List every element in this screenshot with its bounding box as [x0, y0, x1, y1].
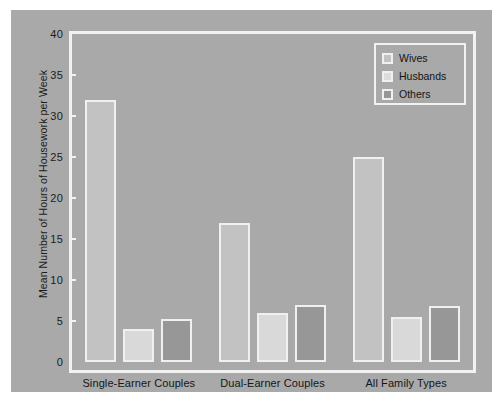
- chart-legend: WivesHusbandsOthers: [374, 43, 466, 105]
- x-axis-tick-label: Dual-Earner Couples: [206, 377, 340, 389]
- y-axis-tick-label: 20: [50, 192, 63, 204]
- y-axis-tick-label: 10: [50, 274, 63, 286]
- y-axis-tick-label: 30: [50, 110, 63, 122]
- y-axis-tick-mark: [69, 74, 76, 76]
- y-axis-tick-label: 35: [50, 69, 63, 81]
- bar-husbands-group-3: [391, 317, 422, 362]
- legend-item-wives: Wives: [382, 50, 458, 66]
- y-axis-tick-label: 15: [50, 233, 63, 245]
- bar-others-group-1: [161, 319, 192, 362]
- x-axis-tick-label: All Family Types: [339, 377, 473, 389]
- y-axis-tick-mark: [69, 238, 76, 240]
- legend-swatch-icon-wives: [382, 53, 393, 64]
- bar-others-group-3: [429, 306, 460, 362]
- legend-item-others: Others: [382, 86, 458, 102]
- x-axis-tick-label: Single-Earner Couples: [72, 377, 206, 389]
- legend-label: Wives: [399, 52, 428, 64]
- bar-others-group-2: [295, 305, 326, 362]
- bar-wives-group-3: [353, 157, 384, 362]
- y-axis-tick-label: 5: [57, 315, 63, 327]
- y-axis-title: Mean Number of Hours of Housework per We…: [37, 34, 49, 334]
- y-axis-tick-label: 0: [57, 356, 63, 368]
- legend-item-husbands: Husbands: [382, 68, 458, 84]
- bar-husbands-group-1: [123, 329, 154, 362]
- y-axis-tick-mark: [69, 197, 76, 199]
- y-axis-tick-mark: [69, 156, 76, 158]
- bar-wives-group-1: [85, 100, 116, 362]
- y-axis-tick-label: 25: [50, 151, 63, 163]
- y-axis-tick-label: 40: [50, 28, 63, 40]
- y-axis-tick-mark: [69, 279, 76, 281]
- legend-swatch-icon-others: [382, 89, 393, 100]
- bar-husbands-group-2: [257, 313, 288, 362]
- legend-label: Others: [399, 88, 431, 100]
- legend-label: Husbands: [399, 70, 446, 82]
- y-axis-tick-mark: [69, 115, 76, 117]
- figure-panel: 0510152025303540 Mean Number of Hours of…: [11, 10, 492, 392]
- bar-wives-group-2: [219, 223, 250, 362]
- legend-swatch-icon-husbands: [382, 71, 393, 82]
- y-axis-tick-mark: [69, 320, 76, 322]
